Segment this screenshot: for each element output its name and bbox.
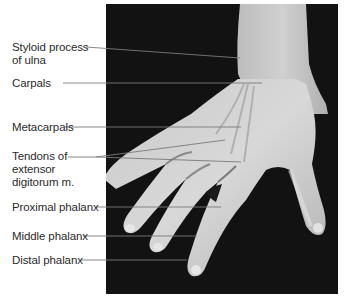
label-proximal-phalanx: Proximal phalanx (12, 201, 99, 214)
leader-line-styloid (86, 47, 240, 58)
leader-line-tendons-lower (96, 157, 241, 162)
hand-anatomy-figure: Styloid process of ulna Carpals Metacarp… (0, 0, 344, 304)
label-carpals: Carpals (12, 77, 51, 90)
leader-line-tendons-upper (68, 140, 225, 157)
label-tendons: Tendons of extensor digitorum m. (12, 150, 74, 189)
label-styloid-process: Styloid process of ulna (12, 41, 88, 67)
label-distal-phalanx: Distal phalanx (12, 254, 83, 267)
label-metacarpals: Metacarpals (12, 121, 74, 134)
label-middle-phalanx: Middle phalanx (12, 230, 88, 243)
